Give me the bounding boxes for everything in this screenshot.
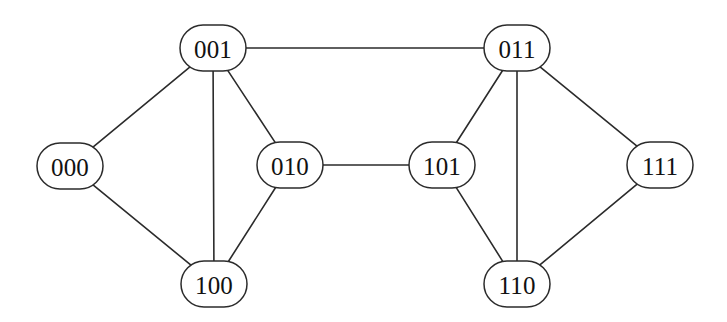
edge-layer (93, 48, 637, 265)
graph-edge-110-111 (540, 184, 637, 265)
graph-edge-011-111 (540, 67, 637, 146)
node-label-101: 101 (423, 153, 461, 180)
graph-edge-010-100 (228, 188, 275, 262)
graph-node-101[interactable]: 101 (409, 142, 475, 188)
diagram-canvas: 000001010011100101110111 (0, 0, 727, 322)
graph-edge-101-110 (456, 187, 503, 261)
graph-node-001[interactable]: 001 (180, 25, 246, 71)
node-layer: 000001010011100101110111 (37, 25, 693, 307)
node-label-001: 001 (194, 36, 232, 63)
node-label-111: 111 (642, 153, 678, 180)
node-label-000: 000 (51, 154, 89, 181)
graph-edge-001-010 (228, 70, 276, 142)
graph-node-000[interactable]: 000 (37, 143, 103, 189)
node-label-110: 110 (498, 272, 535, 299)
graph-node-011[interactable]: 011 (484, 25, 550, 71)
graph-node-100[interactable]: 100 (181, 261, 247, 307)
graph-edge-011-101 (456, 71, 502, 143)
node-label-100: 100 (195, 272, 233, 299)
node-label-010: 010 (271, 153, 309, 180)
graph-node-010[interactable]: 010 (257, 142, 323, 188)
graph-edge-001-100 (213, 71, 214, 261)
graph-node-111[interactable]: 111 (627, 142, 693, 188)
graph-node-110[interactable]: 110 (484, 261, 550, 307)
graph-edge-000-100 (93, 185, 191, 265)
graph-svg: 000001010011100101110111 (0, 0, 727, 322)
graph-edge-000-001 (93, 67, 190, 147)
node-label-011: 011 (498, 36, 535, 63)
